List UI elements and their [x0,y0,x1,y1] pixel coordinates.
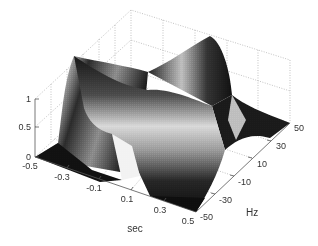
svg-text:1: 1 [26,94,31,104]
svg-text:0.5: 0.5 [18,122,31,132]
svg-text:50: 50 [294,123,304,133]
svg-text:-0.3: -0.3 [54,172,70,182]
svg-text:-50: -50 [200,212,213,222]
svg-text:0.3: 0.3 [154,205,167,215]
surface [35,10,290,212]
svg-text:-0.1: -0.1 [86,183,102,193]
svg-text:-10: -10 [238,177,251,187]
svg-text:-30: -30 [219,195,232,205]
y-axis-label: Hz [246,207,258,218]
svg-text:10: 10 [257,159,267,169]
svg-text:0.5: 0.5 [182,216,195,226]
x-axis-label: sec [127,223,143,234]
svg-text:30: 30 [276,141,286,151]
surface-plot: 1 0.5 0 -0.5 -0.3 -0.1 0.1 0.3 0.5 sec -… [0,0,318,246]
svg-text:-0.5: -0.5 [22,161,38,171]
svg-text:0.1: 0.1 [121,194,134,204]
z-tick-labels: 1 0.5 0 [18,94,31,162]
surface-plot-svg: 1 0.5 0 -0.5 -0.3 -0.1 0.1 0.3 0.5 sec -… [0,0,318,246]
